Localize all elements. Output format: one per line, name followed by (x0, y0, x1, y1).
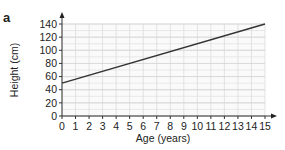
y-tick-label: 60 (45, 70, 57, 82)
x-tick-label: 2 (86, 120, 92, 132)
y-tick-label: 140 (39, 18, 57, 30)
x-tick-label: 15 (259, 120, 271, 132)
x-tick-label: 13 (232, 120, 244, 132)
x-tick-label: 1 (73, 120, 79, 132)
x-tick-label: 9 (181, 120, 187, 132)
line-chart: 0204060801001201400123456789101112131415… (0, 0, 285, 150)
x-tick-label: 3 (100, 120, 106, 132)
grid (62, 24, 265, 116)
y-axis-title: Height (cm) (8, 43, 20, 97)
y-tick-label: 80 (45, 57, 57, 69)
x-tick-label: 14 (246, 120, 258, 132)
y-tick-label: 20 (45, 97, 57, 109)
y-tick-label: 40 (45, 83, 57, 95)
x-tick-label: 5 (127, 120, 133, 132)
x-tick-label: 6 (140, 120, 146, 132)
x-tick-label: 4 (113, 120, 119, 132)
x-tick-label: 7 (154, 120, 160, 132)
x-tick-label: 0 (59, 120, 65, 132)
x-tick-label: 8 (167, 120, 173, 132)
x-axis-title: Age (years) (136, 132, 190, 144)
y-tick-label: 0 (51, 110, 57, 122)
x-tick-label: 10 (191, 120, 203, 132)
y-tick-label: 100 (39, 44, 57, 56)
y-tick-label: 120 (39, 31, 57, 43)
x-tick-label: 11 (205, 120, 216, 132)
x-tick-label: 12 (219, 120, 231, 132)
